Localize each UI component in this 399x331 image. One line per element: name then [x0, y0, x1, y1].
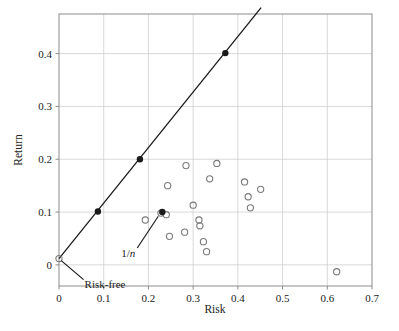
one-over-n-label: 1/n: [121, 247, 135, 259]
x-tick-label: 0.6: [320, 292, 334, 304]
y-tick-label: 0.3: [38, 100, 52, 112]
data-point-filled: [222, 50, 228, 56]
y-tick-label: 0.4: [38, 48, 52, 60]
x-tick-label: 0.3: [186, 292, 200, 304]
x-tick-label: 0.7: [365, 292, 379, 304]
y-axis-ticks: [56, 54, 60, 265]
plot-background: [59, 14, 372, 286]
x-tick-label: 0: [56, 292, 62, 304]
scatter-plot-svg: 00.10.20.30.40.50.60.7 00.10.20.30.4 Ris…: [0, 0, 399, 331]
x-tick-label: 0.2: [142, 292, 156, 304]
chart-figure: 00.10.20.30.40.50.60.7 00.10.20.30.4 Ris…: [0, 0, 399, 331]
data-point-filled: [159, 209, 165, 215]
x-axis-title: Risk: [204, 303, 225, 315]
y-axis-title: Return: [12, 134, 24, 166]
data-point-filled: [95, 208, 101, 214]
y-tick-label: 0.2: [38, 153, 52, 165]
x-tick-label: 0.1: [97, 292, 111, 304]
risk-free-label: Risk-free: [85, 278, 126, 290]
data-point-filled: [137, 156, 143, 162]
y-axis-tick-labels: 00.10.20.30.4: [38, 48, 52, 271]
y-tick-label: 0: [47, 259, 53, 271]
x-tick-label: 0.5: [276, 292, 290, 304]
x-tick-label: 0.4: [231, 292, 245, 304]
y-tick-label: 0.1: [38, 206, 52, 218]
